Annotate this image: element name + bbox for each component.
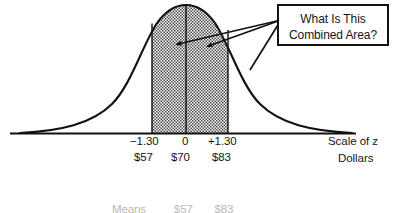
- callout-line-2: Combined Area?: [279, 29, 387, 41]
- axis-caption-scale-of-z: Scale of z: [328, 136, 378, 148]
- z-tick-label-positive: +1.30: [208, 136, 237, 148]
- dollar-tick-label-70: $70: [171, 152, 190, 164]
- shaded-area-group: [152, 0, 228, 133]
- z-tick-label-zero: 0: [182, 136, 188, 148]
- dollar-tick-label-83: $83: [212, 152, 231, 164]
- callout-line-1: What Is This: [279, 13, 387, 25]
- shaded-combined-area: [152, 0, 228, 133]
- clipped-bottom-text-inner: Means $57 $83: [112, 204, 233, 213]
- axis-caption-dollars: Dollars: [338, 153, 373, 165]
- clipped-bottom-text: Means $57 $83: [112, 204, 282, 213]
- normal-curve-figure: What Is This Combined Area? −1.30 0 +1.3…: [0, 0, 400, 213]
- dollar-tick-label-57: $57: [134, 152, 153, 164]
- callout-box: What Is This Combined Area?: [277, 4, 389, 46]
- z-tick-label-negative: −1.30: [130, 136, 159, 148]
